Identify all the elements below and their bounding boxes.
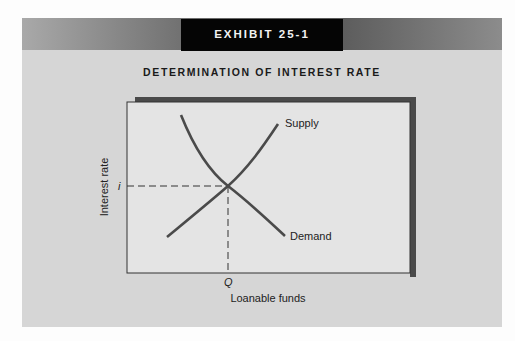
plot-shadow-right — [410, 97, 416, 277]
y-axis-label: Interest rate — [98, 158, 110, 217]
y-tick-i: i — [118, 180, 121, 192]
plot-area — [127, 102, 410, 273]
demand-label: Demand — [290, 230, 332, 242]
chart-svg: Supply Demand i Q Loanable funds Interes… — [0, 0, 515, 341]
x-tick-q: Q — [224, 276, 233, 288]
x-axis-label: Loanable funds — [230, 292, 306, 304]
supply-label: Supply — [285, 117, 319, 129]
